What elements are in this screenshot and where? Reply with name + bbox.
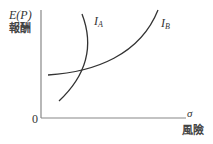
- curve-ia-label-sub: A: [98, 20, 103, 29]
- x-axis-label-cn: 風險: [182, 125, 204, 136]
- y-axis-label: E(P): [9, 9, 32, 21]
- curve-ib-label-sub: B: [165, 22, 170, 31]
- y-axis-label-cn: 報酬: [9, 23, 31, 34]
- curve-ib: [48, 10, 158, 75]
- x-axis-label: σ: [187, 108, 192, 119]
- origin-label: 0: [32, 113, 38, 125]
- curve-ia-label: IA: [94, 15, 103, 29]
- curve-ib-label: IB: [161, 17, 170, 31]
- curve-ia: [59, 14, 88, 101]
